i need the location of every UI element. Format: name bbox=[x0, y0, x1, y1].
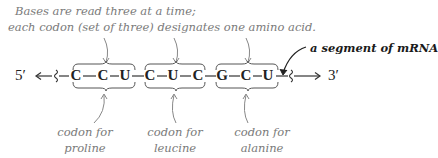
base-9: U bbox=[261, 67, 275, 84]
five-prime-end: 5′ bbox=[15, 67, 26, 84]
label-arrow-3 bbox=[244, 95, 248, 123]
codon-label-3-line1: codon for bbox=[222, 124, 302, 140]
base-6: C bbox=[191, 67, 205, 84]
mrna-arrow bbox=[283, 47, 306, 73]
base-7: G bbox=[215, 67, 229, 84]
codon-label-2-line1: codon for bbox=[135, 124, 215, 140]
three-prime-end: 3′ bbox=[328, 67, 339, 84]
base-5: U bbox=[166, 67, 180, 84]
codon-label-proline: codon for proline bbox=[45, 124, 125, 156]
codon-label-alanine: codon for alanine bbox=[222, 124, 302, 156]
codon-label-2-line2: leucine bbox=[135, 140, 215, 156]
codon-label-leucine: codon for leucine bbox=[135, 124, 215, 156]
codon-label-1-line2: proline bbox=[45, 140, 125, 156]
codon-label-1-line1: codon for bbox=[45, 124, 125, 140]
base-8: C bbox=[239, 67, 253, 84]
caption-arrow-1 bbox=[104, 38, 108, 62]
base-3: U bbox=[118, 67, 132, 84]
label-arrow-1 bbox=[94, 95, 104, 123]
base-2: C bbox=[96, 67, 110, 84]
caption-arrow-3 bbox=[246, 38, 250, 62]
base-1: C bbox=[69, 67, 83, 84]
caption-arrow-2 bbox=[174, 38, 178, 62]
codon-label-3-line2: alanine bbox=[222, 140, 302, 156]
base-4: C bbox=[143, 67, 157, 84]
label-arrow-2 bbox=[172, 95, 176, 123]
break-squiggle-right bbox=[290, 70, 293, 82]
break-squiggle-left bbox=[55, 70, 58, 82]
